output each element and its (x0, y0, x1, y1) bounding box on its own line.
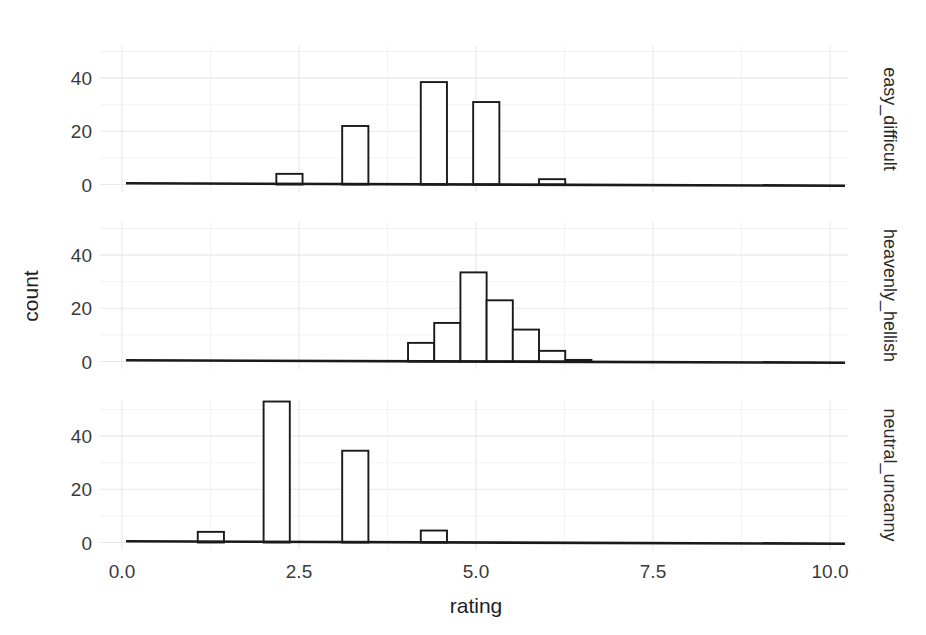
y-tick-label: 20 (71, 479, 92, 500)
x-tick-label: 7.5 (640, 561, 666, 582)
histogram-bar (460, 272, 486, 361)
y-tick-label: 0 (81, 352, 92, 373)
x-axis-title: rating (450, 594, 503, 617)
histogram-facet-chart: 0204002040020400.02.55.07.510.0 easy_dif… (0, 0, 926, 635)
histogram-bar (342, 451, 368, 543)
x-tick-label: 10.0 (812, 561, 849, 582)
y-axis-title: count (19, 270, 42, 322)
y-tick-label: 40 (71, 68, 92, 89)
x-tick-label: 2.5 (286, 561, 312, 582)
y-tick-label: 40 (71, 245, 92, 266)
plot-canvas: 0204002040020400.02.55.07.510.0 easy_dif… (0, 0, 926, 635)
histogram-bar (513, 330, 539, 362)
histogram-bar (539, 351, 565, 362)
histogram-bar (342, 126, 368, 185)
histogram-bar (434, 323, 460, 362)
facet-strip-label: easy_difficult (879, 67, 900, 171)
x-tick-label: 0.0 (109, 561, 135, 582)
y-tick-label: 20 (71, 121, 92, 142)
y-tick-label: 40 (71, 426, 92, 447)
histogram-bar (408, 343, 434, 362)
histogram-bar (473, 102, 499, 184)
histogram-bar (264, 402, 290, 543)
facet-strip-layer: easy_difficultheavenly_hellishneutral_un… (879, 67, 900, 541)
histogram-bar (487, 300, 513, 361)
histogram-bar (421, 82, 447, 184)
x-tick-label: 5.0 (463, 561, 489, 582)
facet-strip-label: neutral_uncanny (879, 408, 900, 541)
y-tick-label: 0 (81, 175, 92, 196)
y-tick-label: 20 (71, 298, 92, 319)
y-tick-label: 0 (81, 533, 92, 554)
histogram-bar (421, 531, 447, 543)
facet-strip-label: heavenly_hellish (879, 229, 900, 362)
